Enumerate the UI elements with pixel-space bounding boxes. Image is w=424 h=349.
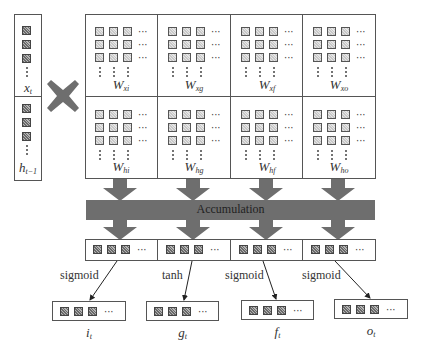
gate-cell — [277, 306, 286, 315]
gate-cell — [60, 307, 69, 316]
arrow-to-gt — [184, 261, 192, 300]
gate-cell — [249, 306, 258, 315]
horizontal-ellipsis: ··· — [386, 306, 396, 314]
arrow-to-it — [90, 261, 117, 300]
gate-label-g: gt — [146, 325, 219, 341]
activation-arrows — [0, 0, 424, 349]
gate-cell — [370, 305, 379, 314]
gate-cell — [154, 307, 163, 316]
horizontal-ellipsis: ··· — [104, 308, 114, 316]
gate-label-f: ft — [241, 324, 314, 340]
gate-cell — [342, 305, 351, 314]
gate-label-o: ot — [334, 323, 408, 339]
arrow-to-ft — [263, 261, 276, 299]
gate-cell — [263, 306, 272, 315]
arrow-to-ot — [335, 261, 370, 298]
horizontal-ellipsis: ··· — [198, 308, 208, 316]
horizontal-ellipsis: ··· — [293, 307, 303, 315]
gate-cell — [74, 307, 83, 316]
gate-cell — [88, 307, 97, 316]
gate-cell — [168, 307, 177, 316]
gate-label-i: it — [52, 325, 126, 341]
gate-cell — [182, 307, 191, 316]
gate-cell — [356, 305, 365, 314]
